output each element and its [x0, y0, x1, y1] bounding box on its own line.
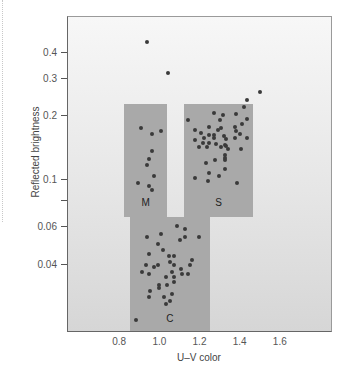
data-point — [162, 295, 166, 299]
data-point — [136, 181, 140, 185]
region-label-m: M — [142, 197, 150, 208]
data-point — [223, 167, 227, 171]
data-point — [199, 131, 203, 135]
region-label-s: S — [215, 197, 222, 208]
data-point — [218, 118, 222, 122]
data-point — [207, 133, 211, 137]
data-point — [217, 174, 221, 178]
data-point — [147, 295, 151, 299]
data-point — [145, 40, 149, 44]
data-point — [213, 158, 217, 162]
data-point — [205, 145, 209, 149]
x-tick-label: 1.6 — [273, 336, 287, 347]
page-edge-dotted-line — [2, 0, 3, 222]
data-point — [150, 149, 154, 153]
data-point — [168, 299, 172, 303]
data-point — [175, 224, 179, 228]
data-point — [188, 263, 192, 267]
data-point — [214, 142, 218, 146]
data-point — [180, 272, 184, 276]
region-label-c: C — [166, 313, 173, 324]
data-point — [159, 232, 163, 236]
data-point — [157, 286, 161, 290]
data-point — [206, 179, 210, 183]
data-point — [167, 254, 171, 258]
data-point — [156, 263, 160, 267]
data-point — [233, 125, 237, 129]
data-point — [223, 158, 227, 162]
data-point — [166, 71, 170, 75]
data-point — [193, 138, 197, 142]
y-tick-label: 0.3 — [27, 73, 57, 84]
data-point — [226, 147, 230, 151]
data-point — [139, 126, 143, 130]
data-point — [164, 302, 168, 306]
data-point — [140, 270, 144, 274]
data-point — [204, 161, 208, 165]
data-point — [178, 238, 182, 242]
data-point — [193, 176, 197, 180]
data-point — [145, 235, 149, 239]
data-point — [183, 227, 187, 231]
plot-area: MSC — [67, 16, 332, 332]
data-point — [207, 171, 211, 175]
data-point — [240, 122, 244, 126]
data-point — [170, 270, 174, 274]
data-point — [134, 318, 138, 322]
data-point — [156, 242, 160, 246]
data-point — [172, 254, 176, 258]
data-point — [186, 118, 190, 122]
data-point — [239, 147, 243, 151]
data-point — [165, 283, 169, 287]
data-point — [159, 129, 163, 133]
data-point — [148, 289, 152, 293]
data-point — [170, 292, 174, 296]
data-point — [242, 105, 246, 109]
data-point — [212, 136, 216, 140]
data-point — [219, 126, 223, 130]
data-point — [235, 181, 239, 185]
data-point — [144, 263, 148, 267]
y-tick-label: 0.2 — [27, 110, 57, 121]
data-point — [183, 235, 187, 239]
data-point — [212, 111, 216, 115]
data-point — [161, 248, 165, 252]
data-point — [150, 188, 154, 192]
data-point — [233, 136, 237, 140]
data-point — [147, 157, 151, 161]
data-point — [207, 141, 211, 145]
data-point — [193, 128, 197, 132]
data-point — [245, 98, 249, 102]
data-point — [147, 252, 151, 256]
data-point — [245, 117, 249, 121]
data-point — [152, 174, 156, 178]
x-tick-label: 0.8 — [112, 336, 126, 347]
data-point — [164, 275, 168, 279]
x-axis-title: U–V color — [177, 352, 221, 363]
y-tick-label: 0.1 — [27, 174, 57, 185]
data-point — [179, 267, 183, 271]
data-point — [202, 136, 206, 140]
data-point — [219, 145, 223, 149]
data-point — [152, 265, 156, 269]
data-point — [172, 263, 176, 267]
data-point — [258, 90, 262, 94]
x-tick-label: 1.4 — [233, 336, 247, 347]
data-point — [197, 145, 201, 149]
data-point — [221, 113, 225, 117]
data-point — [201, 141, 205, 145]
data-point — [234, 112, 238, 116]
data-point — [186, 272, 190, 276]
data-point — [207, 125, 211, 129]
data-point — [172, 275, 176, 279]
data-point — [245, 136, 249, 140]
data-point — [145, 163, 149, 167]
data-point — [172, 280, 176, 284]
x-tick-label: 1.2 — [193, 336, 207, 347]
y-tick-label: 0.4 — [27, 46, 57, 57]
x-tick-label: 1.0 — [152, 336, 166, 347]
data-point — [224, 137, 228, 141]
y-tick-label: 0.04 — [27, 258, 57, 269]
data-point — [238, 132, 242, 136]
data-point — [190, 258, 194, 262]
